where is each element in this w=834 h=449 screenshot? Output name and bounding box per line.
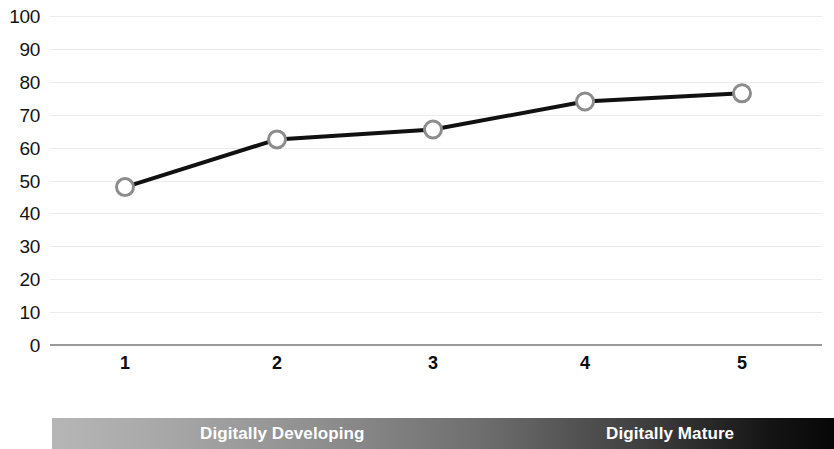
series-line bbox=[125, 93, 742, 187]
x-tick-label: 1 bbox=[95, 352, 155, 374]
y-tick-label: 70 bbox=[0, 105, 40, 124]
series-line-group bbox=[50, 0, 822, 400]
y-tick-label: 0 bbox=[0, 336, 40, 355]
x-tick-label: 2 bbox=[247, 352, 307, 374]
data-point-marker bbox=[117, 179, 134, 196]
y-tick-label: 80 bbox=[0, 72, 40, 91]
line-chart: 100 90 80 70 60 50 40 30 20 10 0 bbox=[0, 0, 834, 449]
plot-wrapper: 100 90 80 70 60 50 40 30 20 10 0 bbox=[0, 0, 834, 400]
y-tick-label: 100 bbox=[0, 7, 40, 26]
data-point-marker bbox=[577, 93, 594, 110]
maturity-gradient-bar: Digitally Developing Digitally Mature bbox=[52, 418, 834, 449]
data-point-marker bbox=[269, 131, 286, 148]
x-axis-tick-labels: 1 2 3 4 5 bbox=[50, 352, 822, 382]
y-tick-label: 40 bbox=[0, 204, 40, 223]
y-tick-label: 20 bbox=[0, 270, 40, 289]
maturity-label-developing: Digitally Developing bbox=[200, 424, 364, 444]
y-axis-tick-labels: 100 90 80 70 60 50 40 30 20 10 0 bbox=[0, 0, 40, 400]
y-tick-label: 30 bbox=[0, 237, 40, 256]
y-tick-label: 90 bbox=[0, 39, 40, 58]
data-point-marker bbox=[425, 121, 442, 138]
data-point-marker bbox=[734, 85, 751, 102]
plot-area bbox=[50, 0, 822, 400]
y-tick-label: 50 bbox=[0, 171, 40, 190]
x-tick-label: 3 bbox=[403, 352, 463, 374]
y-tick-label: 10 bbox=[0, 303, 40, 322]
x-tick-label: 5 bbox=[712, 352, 772, 374]
maturity-label-mature: Digitally Mature bbox=[606, 424, 734, 444]
x-tick-label: 4 bbox=[555, 352, 615, 374]
y-tick-label: 60 bbox=[0, 138, 40, 157]
series-markers bbox=[117, 85, 751, 196]
